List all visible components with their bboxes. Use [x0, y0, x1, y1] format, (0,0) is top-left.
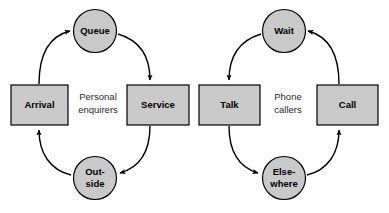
node-call[interactable]: Call	[317, 85, 378, 125]
node-wait[interactable]: Wait	[263, 10, 306, 53]
edge-outside-to-arrival	[39, 130, 71, 175]
diagram-canvas: Arrival Queue Service Out- side Personal	[0, 0, 389, 213]
node-call-label: Call	[339, 99, 356, 110]
node-elsewhere-label-line2: where	[269, 178, 297, 189]
node-outside-label-line2: side	[85, 178, 104, 189]
cycle-diagram: Arrival Queue Service Out- side Personal	[0, 0, 389, 213]
node-wait-label: Wait	[274, 25, 295, 36]
edge-queue-to-service	[118, 34, 150, 80]
node-elsewhere-label-line1: Else-	[273, 166, 296, 177]
node-arrival-label: Arrival	[24, 99, 54, 110]
node-elsewhere[interactable]: Else- where	[263, 157, 306, 200]
node-queue-label: Queue	[80, 25, 110, 36]
group-label-personal-enquirers: Personal enquirers	[78, 91, 118, 115]
node-service-label: Service	[141, 99, 175, 110]
edge-call-to-wait	[308, 31, 339, 84]
node-talk[interactable]: Talk	[199, 85, 260, 125]
group-phone-callers: Talk Wait Call Else- where Phone call	[199, 10, 378, 200]
node-talk-label: Talk	[220, 99, 239, 110]
group-personal-enquirers: Arrival Queue Service Out- side Personal	[11, 10, 189, 200]
edge-arrival-to-queue	[39, 31, 70, 84]
edge-elsewhere-to-call	[307, 130, 339, 175]
node-arrival[interactable]: Arrival	[11, 85, 68, 125]
group-label-personal-line2: enquirers	[78, 104, 118, 115]
edge-talk-to-elsewhere	[229, 126, 258, 173]
group-label-personal-line1: Personal	[79, 91, 117, 102]
node-outside-label-line1: Out-	[85, 166, 105, 177]
edge-wait-to-talk	[229, 34, 261, 80]
group-label-phone-line1: Phone	[274, 91, 301, 102]
group-label-phone-callers: Phone callers	[274, 91, 302, 115]
node-outside[interactable]: Out- side	[74, 157, 117, 200]
node-queue[interactable]: Queue	[74, 10, 117, 53]
group-label-phone-line2: callers	[274, 104, 302, 115]
edge-service-to-outside	[120, 126, 150, 173]
node-service[interactable]: Service	[127, 85, 189, 125]
